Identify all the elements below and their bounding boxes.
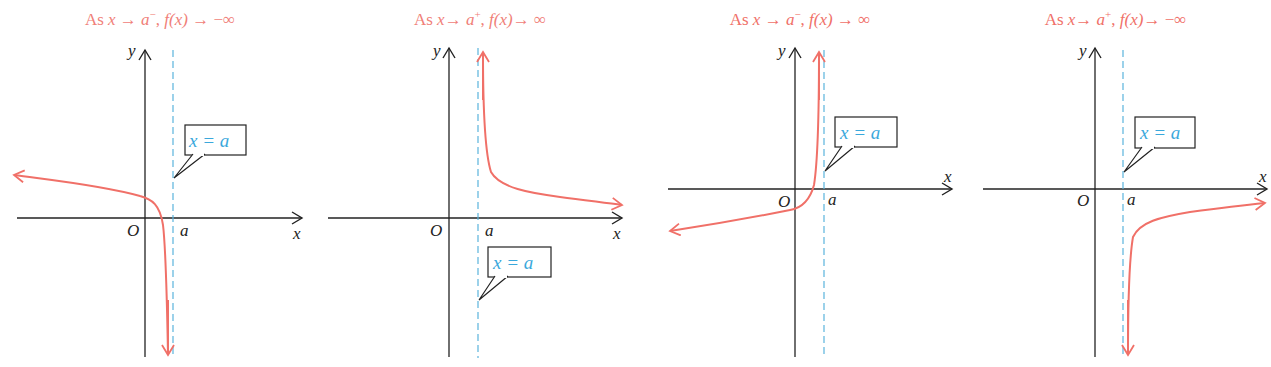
panel-left-limit-neg-inf: As x → a−, f(x) → −∞ y x O a x = a bbox=[0, 0, 320, 367]
origin-label: O bbox=[430, 221, 442, 240]
x-axis-label: x bbox=[612, 224, 621, 243]
curve bbox=[670, 54, 819, 231]
curve bbox=[483, 54, 622, 205]
callout: x = a bbox=[479, 247, 551, 300]
callout: x = a bbox=[1124, 117, 1195, 172]
callout-label: x = a bbox=[188, 130, 229, 151]
callout: x = a bbox=[825, 117, 897, 171]
y-axis-label: y bbox=[431, 41, 441, 60]
curve bbox=[1128, 203, 1265, 355]
y-axis-label: y bbox=[1077, 41, 1087, 60]
x-axis-label: x bbox=[1258, 167, 1267, 186]
origin-label: O bbox=[127, 221, 139, 240]
panel-right-limit-pos-inf: As x→ a+, f(x)→ ∞ y x O a x = a bbox=[320, 0, 640, 367]
origin-label: O bbox=[778, 192, 790, 211]
a-label: a bbox=[1127, 190, 1136, 209]
a-label: a bbox=[485, 221, 494, 240]
callout-label: x = a bbox=[839, 122, 880, 143]
origin-label: O bbox=[1077, 191, 1089, 210]
graph: y x O a x = a bbox=[320, 0, 640, 367]
y-axis-label: y bbox=[126, 41, 136, 60]
graph: y x O a x = a bbox=[0, 0, 320, 367]
panel-left-limit-pos-inf: As x → a−, f(x) → ∞ y x O a x = a bbox=[640, 0, 960, 367]
x-axis-label: x bbox=[943, 167, 952, 186]
a-label: a bbox=[180, 221, 189, 240]
callout-label: x = a bbox=[1139, 122, 1180, 143]
graph: y x O a x = a bbox=[960, 0, 1271, 367]
graph: y x O a x = a bbox=[640, 0, 960, 367]
panel-right-limit-neg-inf: As x→ a+, f(x)→ −∞ y x O a x = a bbox=[960, 0, 1271, 367]
x-axis-label: x bbox=[292, 224, 301, 243]
a-label: a bbox=[828, 190, 837, 209]
callout: x = a bbox=[174, 125, 246, 178]
callout-label: x = a bbox=[492, 252, 533, 273]
y-axis-label: y bbox=[776, 41, 786, 60]
